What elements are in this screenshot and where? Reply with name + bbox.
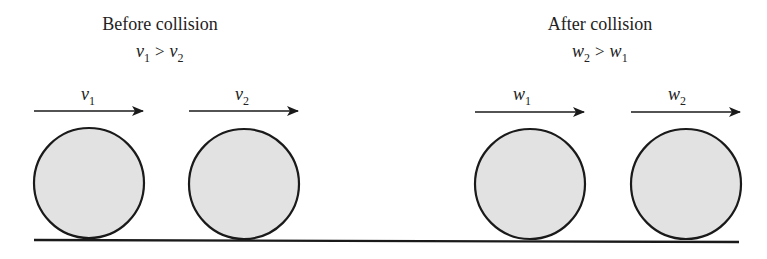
velocity-label-v2: v2 — [235, 84, 249, 108]
ball-1-after — [475, 129, 585, 239]
svg-text:w2>w1: w2>w1 — [572, 41, 628, 65]
before-title: Before collision — [102, 14, 217, 34]
ball-2-after — [631, 129, 741, 239]
ground-line — [34, 240, 739, 242]
before-condition: v1>v2 — [136, 41, 184, 65]
velocity-label-w1: w1 — [513, 84, 531, 108]
velocity-label-w2: w2 — [668, 84, 686, 108]
after-title: After collision — [548, 14, 652, 34]
ball-2-before — [189, 129, 299, 239]
velocity-label-v1: v1 — [81, 84, 95, 108]
svg-text:v1>v2: v1>v2 — [136, 41, 184, 65]
collision-diagram: Before collision v1>v2 After collision w… — [0, 0, 767, 259]
ball-1-before — [34, 128, 144, 238]
after-condition: w2>w1 — [572, 41, 628, 65]
